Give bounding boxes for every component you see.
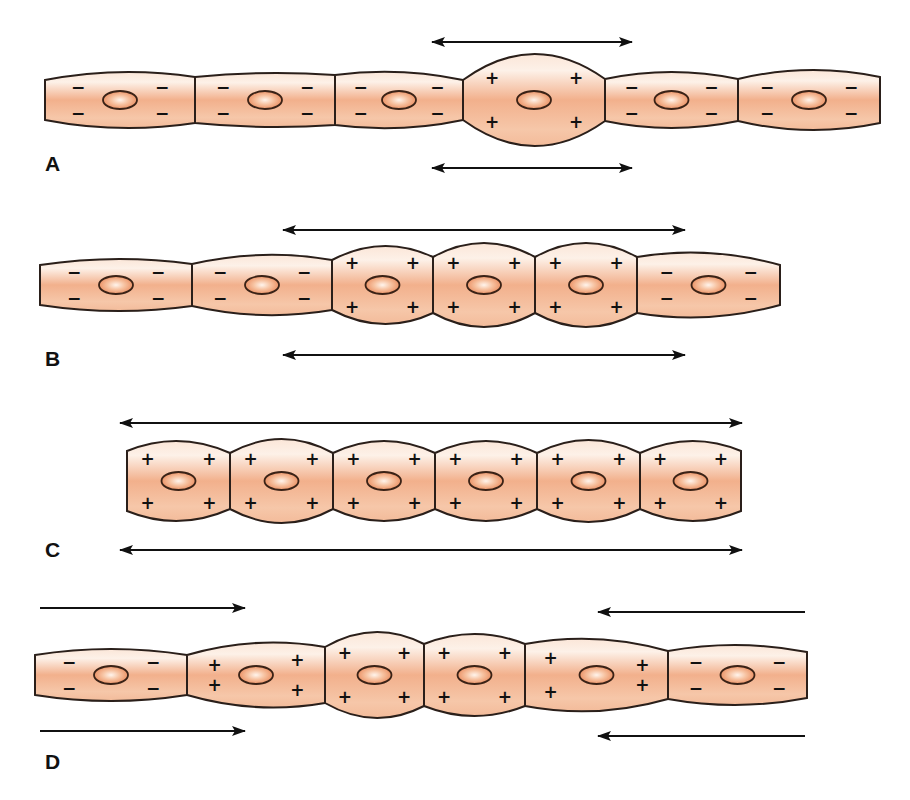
negative-charge-icon: −: [213, 262, 227, 282]
negative-charge-icon: −: [353, 103, 367, 123]
positive-charge-icon: +: [544, 648, 558, 668]
positive-charge-icon: +: [345, 253, 359, 273]
negative-charge-icon: −: [624, 77, 638, 97]
negative-charge-icon: −: [71, 103, 85, 123]
negative-charge-icon: −: [213, 288, 227, 308]
positive-charge-icon: +: [612, 449, 626, 469]
positive-charge-icon: +: [498, 687, 512, 707]
negative-charge-icon: −: [146, 678, 160, 698]
positive-charge-icon: +: [407, 449, 421, 469]
positive-charge-icon: +: [609, 253, 623, 273]
positive-charge-icon: +: [140, 449, 154, 469]
nucleus: [467, 276, 501, 294]
positive-charge-icon: +: [407, 493, 421, 513]
negative-charge-icon: −: [689, 678, 703, 698]
negative-charge-icon: −: [353, 77, 367, 97]
negative-charge-icon: −: [67, 262, 81, 282]
nucleus: [580, 666, 614, 684]
negative-charge-icon: −: [71, 77, 85, 97]
panel-a: −−−−−−−−−−−−++++−−−−−−−−: [45, 42, 880, 168]
nucleus: [692, 276, 726, 294]
myocyte-cell: ++++: [435, 441, 537, 521]
negative-charge-icon: −: [844, 103, 858, 123]
myocyte-cell: −−−−: [335, 72, 463, 129]
panel-d: −−−−++++++++++++++++−−−−: [35, 608, 807, 736]
positive-charge-icon: +: [653, 449, 667, 469]
positive-charge-icon: +: [290, 680, 304, 700]
positive-charge-icon: +: [202, 449, 216, 469]
cardiac-cell-depolarization-diagram: −−−−−−−−−−−−++++−−−−−−−−−−−−−−−−++++++++…: [0, 0, 910, 800]
positive-charge-icon: +: [544, 682, 558, 702]
positive-charge-icon: +: [346, 493, 360, 513]
positive-charge-icon: +: [635, 655, 649, 675]
nucleus: [162, 472, 196, 490]
positive-charge-icon: +: [548, 253, 562, 273]
positive-charge-icon: +: [507, 253, 521, 273]
myocyte-cell: ++++: [535, 243, 637, 327]
positive-charge-icon: +: [569, 68, 583, 88]
myocyte-cell: −−−−: [605, 72, 738, 128]
positive-charge-icon: +: [550, 493, 564, 513]
nucleus: [239, 666, 273, 684]
myocyte-cell: −−−−: [45, 72, 195, 128]
panel-label-c: C: [45, 538, 60, 562]
negative-charge-icon: −: [155, 103, 169, 123]
positive-charge-icon: +: [714, 493, 728, 513]
nucleus: [382, 91, 416, 109]
positive-charge-icon: +: [714, 449, 728, 469]
panel-label-b: B: [45, 347, 60, 371]
myocyte-cell: ++++: [333, 441, 435, 521]
negative-charge-icon: −: [146, 652, 160, 672]
positive-charge-icon: +: [609, 297, 623, 317]
negative-charge-icon: −: [62, 652, 76, 672]
panels-layer: −−−−−−−−−−−−++++−−−−−−−−−−−−−−−−++++++++…: [35, 42, 880, 736]
negative-charge-icon: −: [844, 77, 858, 97]
nucleus: [103, 91, 137, 109]
positive-charge-icon: +: [509, 493, 523, 513]
negative-charge-icon: −: [704, 77, 718, 97]
positive-charge-icon: +: [305, 449, 319, 469]
myocyte-cell: −−−−: [637, 253, 780, 318]
nucleus: [358, 666, 392, 684]
negative-charge-icon: −: [151, 262, 165, 282]
positive-charge-icon: +: [509, 449, 523, 469]
positive-charge-icon: +: [207, 675, 221, 695]
negative-charge-icon: −: [624, 103, 638, 123]
negative-charge-icon: −: [216, 77, 230, 97]
nucleus: [99, 276, 133, 294]
positive-charge-icon: +: [406, 253, 420, 273]
positive-charge-icon: +: [548, 297, 562, 317]
positive-charge-icon: +: [485, 68, 499, 88]
myocyte-cell: ++++: [525, 639, 668, 712]
negative-charge-icon: −: [430, 103, 444, 123]
negative-charge-icon: −: [155, 77, 169, 97]
myocyte-cell: −−−−: [40, 259, 192, 311]
myocyte-cell: −−−−: [195, 73, 335, 127]
diagram-stage: −−−−−−−−−−−−++++−−−−−−−−−−−−−−−−++++++++…: [0, 0, 910, 800]
positive-charge-icon: +: [437, 687, 451, 707]
nucleus: [792, 91, 826, 109]
negative-charge-icon: −: [297, 262, 311, 282]
positive-charge-icon: +: [569, 112, 583, 132]
positive-charge-icon: +: [485, 112, 499, 132]
positive-charge-icon: +: [346, 449, 360, 469]
positive-charge-icon: +: [305, 493, 319, 513]
nucleus: [572, 472, 606, 490]
myocyte-cell: −−−−: [192, 255, 332, 315]
positive-charge-icon: +: [345, 297, 359, 317]
myocyte-cell: ++++: [187, 643, 325, 708]
positive-charge-icon: +: [243, 493, 257, 513]
negative-charge-icon: −: [67, 288, 81, 308]
nucleus: [655, 91, 689, 109]
positive-charge-icon: +: [507, 297, 521, 317]
negative-charge-icon: −: [743, 288, 757, 308]
myocyte-cell: ++++: [537, 440, 640, 522]
nucleus: [248, 91, 282, 109]
positive-charge-icon: +: [397, 687, 411, 707]
negative-charge-icon: −: [772, 652, 786, 672]
positive-charge-icon: +: [397, 643, 411, 663]
panel-c: ++++++++++++++++++++++++: [120, 423, 742, 550]
negative-charge-icon: −: [62, 678, 76, 698]
positive-charge-icon: +: [446, 297, 460, 317]
nucleus: [366, 276, 400, 294]
